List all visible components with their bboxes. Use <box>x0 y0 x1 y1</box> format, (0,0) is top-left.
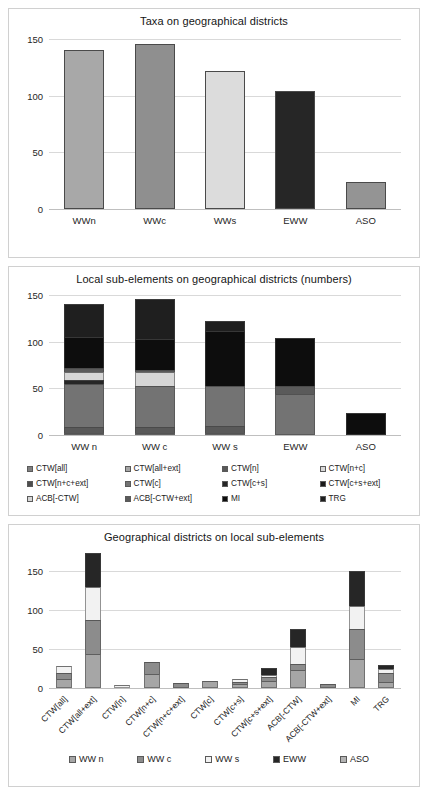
stacked-bar <box>261 668 277 688</box>
bar-segment <box>144 662 160 674</box>
bar-segment <box>275 394 315 435</box>
legend-label: CTW[all+ext] <box>134 464 181 473</box>
legend-item[interactable]: CTW[all+ext] <box>125 464 223 473</box>
x-axis-tick-label: WWn <box>49 215 119 226</box>
y-axis-tick-label: 0 <box>38 430 43 441</box>
stacked-bar <box>85 553 101 688</box>
legend-swatch-icon <box>273 756 280 763</box>
bar-segment <box>135 339 175 370</box>
bar-segment <box>290 647 306 663</box>
x-axis-tick-label: MI <box>348 694 362 708</box>
y-axis-tick-label: 100 <box>27 90 43 101</box>
bar-segment <box>290 670 306 688</box>
legend-label: ACB[-CTW] <box>36 494 79 503</box>
legend-label: MI <box>231 494 240 503</box>
stacked-bar <box>202 681 218 688</box>
bar-segment <box>144 674 160 688</box>
legend-swatch-icon <box>125 466 131 472</box>
gridline: 150 <box>49 39 401 40</box>
bar-segment <box>85 553 101 587</box>
bar-segment <box>135 299 175 339</box>
chart-panel-taxa: Taxa on geographical districts 050100150… <box>8 8 420 258</box>
stacked-bar <box>114 685 130 688</box>
legend-item[interactable]: ACB[-CTW] <box>27 494 125 503</box>
bar-segment <box>378 682 394 688</box>
chart3-title: Geographical districts on local sub-elem… <box>9 531 419 543</box>
legend-item[interactable]: CTW[n+c] <box>320 464 418 473</box>
legend-item[interactable]: CTW[all] <box>27 464 125 473</box>
stacked-bar <box>290 629 306 688</box>
x-axis-tick-label: WW n <box>49 441 119 452</box>
legend-swatch-icon <box>125 481 131 487</box>
stacked-bar <box>135 299 175 435</box>
gridline: 0 <box>49 688 401 689</box>
y-axis-tick-label: 150 <box>27 34 43 45</box>
legend-item[interactable]: WW n <box>69 754 104 764</box>
legend-item[interactable]: CTW[n] <box>222 464 320 473</box>
bar <box>346 182 386 209</box>
x-axis-tick-label: CTW[c] <box>188 694 215 721</box>
legend-item[interactable]: TRG <box>320 494 418 503</box>
legend-swatch-icon <box>205 756 212 763</box>
y-axis-tick-label: 100 <box>27 336 43 347</box>
bar-segment <box>56 666 72 673</box>
x-axis-tick-label: EWW <box>260 215 330 226</box>
stacked-bar <box>232 679 248 688</box>
bar <box>135 44 175 209</box>
bar-segment <box>135 386 175 426</box>
bar-segment <box>205 433 245 435</box>
bar-segment <box>85 654 101 688</box>
legend-item[interactable]: EWW <box>273 754 306 764</box>
y-axis-tick-label: 100 <box>27 604 43 615</box>
figure-page: Taxa on geographical districts 050100150… <box>0 0 428 795</box>
bar-segment <box>56 673 72 679</box>
legend-swatch-icon <box>340 756 347 763</box>
chart3-plot-area: 050100150 <box>49 551 401 688</box>
legend-label: CTW[n+c] <box>329 464 366 473</box>
stacked-bar <box>144 662 160 688</box>
legend-label: CTW[n] <box>231 464 259 473</box>
bar-segment <box>261 677 277 681</box>
legend-item[interactable]: ACB[-CTW+ext] <box>125 494 223 503</box>
bar <box>205 71 245 209</box>
bar-segment <box>135 372 175 386</box>
bar-segment <box>205 426 245 433</box>
x-axis-tick-label: WWc <box>119 215 189 226</box>
bar-segment <box>205 386 245 425</box>
x-axis-tick-label: EWW <box>260 441 330 452</box>
legend-swatch-icon <box>27 481 33 487</box>
y-axis-tick-label: 50 <box>32 383 43 394</box>
legend-item[interactable]: CTW[c+s+ext] <box>320 479 418 488</box>
bar-segment <box>64 384 104 427</box>
y-axis-tick-label: 50 <box>32 643 43 654</box>
y-axis-tick-label: 50 <box>32 147 43 158</box>
legend-item[interactable]: MI <box>222 494 320 503</box>
y-axis-tick-label: 0 <box>38 683 43 694</box>
bar-segment <box>64 433 104 435</box>
legend-swatch-icon <box>320 496 326 502</box>
legend-item[interactable]: WW c <box>137 754 171 764</box>
bar-segment <box>232 679 248 682</box>
legend-swatch-icon <box>320 481 326 487</box>
x-axis-tick-label: CTW[n] <box>100 694 127 721</box>
bar-segment <box>275 338 315 386</box>
bar-segment <box>290 629 306 647</box>
gridline: 0 <box>49 209 401 210</box>
x-axis-tick-label: ASO <box>331 441 401 452</box>
legend-label: WW s <box>215 754 239 764</box>
legend-item[interactable]: CTW[n+c+ext] <box>27 479 125 488</box>
legend-swatch-icon <box>137 756 144 763</box>
legend-item[interactable]: WW s <box>205 754 239 764</box>
legend-item[interactable]: ASO <box>340 754 369 764</box>
bar-segment <box>320 684 336 688</box>
bar-segment <box>261 675 277 677</box>
bar-segment <box>64 368 104 373</box>
bar-segment <box>56 679 72 688</box>
legend-item[interactable]: CTW[c] <box>125 479 223 488</box>
legend-item[interactable]: CTW[c+s] <box>222 479 320 488</box>
bar-segment <box>114 685 130 688</box>
stacked-bar <box>320 684 336 688</box>
bar-segment <box>349 659 365 688</box>
bar-segment <box>346 413 386 435</box>
chart2-plot-area: 050100150 <box>49 295 401 435</box>
